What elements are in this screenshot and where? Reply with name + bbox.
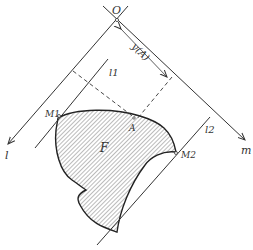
region-f-shape (56, 110, 176, 232)
label-axis-m: m (241, 144, 251, 157)
origin-point (115, 18, 118, 21)
label-distance: y(A) (129, 40, 152, 63)
dashed-projection-m (137, 77, 172, 119)
label-origin: O (112, 4, 121, 17)
label-f: F (99, 141, 109, 155)
point-m2 (175, 152, 178, 155)
point-a (133, 117, 135, 119)
label-l2: l2 (205, 124, 215, 135)
label-m1: M1 (44, 109, 60, 119)
label-a: A (128, 123, 136, 133)
label-l1: l1 (109, 67, 119, 78)
label-m2: M2 (180, 150, 196, 160)
diagram-figure: O y(A) l1 l2 M1 M2 A F l m (0, 0, 253, 250)
label-axis-l: l (5, 149, 9, 162)
